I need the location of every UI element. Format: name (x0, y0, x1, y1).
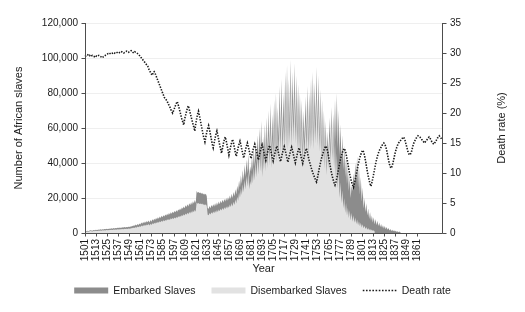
chart-figure: Number of African slaves Death rate (%) … (0, 0, 525, 312)
slave-trade-chart (0, 0, 525, 312)
